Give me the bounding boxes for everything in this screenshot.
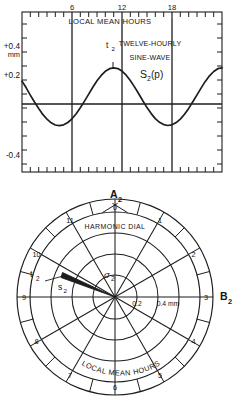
sine-ylabel-plus02: +0.2	[4, 71, 21, 80]
dial-center-label: σ	[104, 269, 111, 280]
dial-hour-10: 10	[32, 250, 40, 259]
sine-annotation-line1: TWELVE-HOURLY	[119, 40, 182, 48]
dial-hour-0: 0	[113, 203, 117, 212]
sine-annotation-line2: SINE-WAVE	[130, 54, 171, 62]
dial-pointer-label-sub: 2	[36, 275, 40, 282]
dial-axis-label-a2-sub: 2	[118, 195, 122, 204]
sine-xlabel-12: 12	[118, 3, 126, 12]
dial-axis-label-a2: A	[110, 188, 118, 200]
sine-left-ticks	[22, 24, 27, 164]
sine-annotation-symbol: S	[140, 68, 147, 80]
sine-wave-panel: +0.4 mm +0.2 -0.4 6 12 18 LOCAL MEAN HOU…	[0, 0, 243, 186]
dial-hour-3: 3	[204, 293, 208, 302]
dial-hour-2: 2	[191, 250, 195, 259]
figure-root: +0.4 mm +0.2 -0.4 6 12 18 LOCAL MEAN HOU…	[0, 0, 243, 414]
dial-vector-label-sub: 2	[64, 287, 68, 294]
dial-hour-11: 11	[66, 216, 74, 225]
dial-radial-tick-0-4: 0.4 mm	[157, 300, 180, 307]
sine-peak-label-sub: 2	[112, 45, 116, 52]
dial-title: HARMONIC DIAL	[85, 223, 146, 230]
dial-hour-7: 7	[68, 371, 72, 380]
dial-hour-9: 9	[22, 293, 26, 302]
dial-axis-label-b2-sub: 2	[228, 297, 232, 306]
harmonic-dial-panel: A 2 B 2 HARMONIC DIAL LOCAL MEAN HOURS σ…	[0, 186, 243, 414]
sine-xlabel-6: 6	[70, 3, 74, 12]
dial-radial-tick-0-2: 0.2	[132, 300, 142, 307]
sine-ylabel-minus04: -0.4	[6, 151, 21, 160]
sine-peak-label: t	[106, 40, 109, 50]
sine-xlabel-18: 18	[168, 3, 176, 12]
sine-annotation-symbol-tail: (p)	[151, 69, 163, 80]
dial-axis-label-b2: B	[220, 290, 228, 302]
dial-hour-4: 4	[191, 337, 195, 346]
dial-hour-8: 8	[34, 337, 38, 346]
dial-center-label-sub: 2	[111, 275, 115, 282]
sine-right-ticks	[217, 24, 222, 164]
sine-ylabel-unit-mm: mm	[8, 50, 20, 59]
dial-hour-1: 1	[158, 216, 162, 225]
dial-hour-6: 6	[113, 383, 117, 392]
sine-top-caption: LOCAL MEAN HOURS	[68, 17, 151, 26]
dial-hour-5: 5	[158, 371, 162, 380]
dial-vector-label: s	[58, 282, 62, 292]
